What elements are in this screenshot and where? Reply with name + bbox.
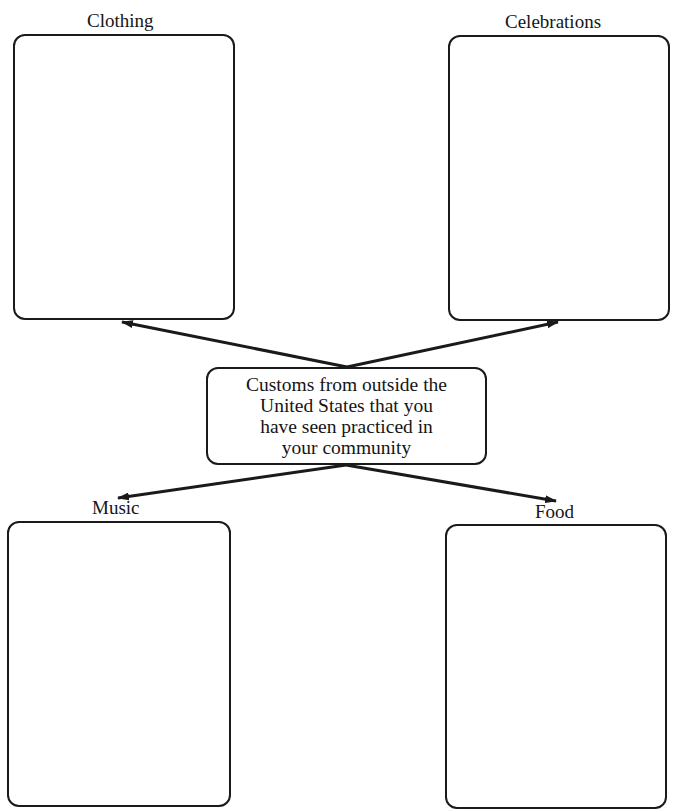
arrow-to-music — [118, 465, 346, 498]
central-topic-line-2: United States that you — [260, 395, 433, 416]
arrow-to-celebrations — [347, 322, 558, 367]
clothing-label: Clothing — [87, 11, 154, 31]
celebrations-label: Celebrations — [505, 12, 601, 32]
central-topic-line-3: have seen practiced in — [260, 416, 433, 437]
food-box[interactable] — [445, 524, 667, 809]
arrow-to-food — [346, 465, 556, 501]
clothing-box[interactable] — [13, 34, 235, 320]
central-topic-box: Customs from outside the United States t… — [206, 367, 487, 465]
music-label: Music — [92, 498, 140, 518]
arrow-to-clothing — [122, 322, 347, 367]
celebrations-box[interactable] — [448, 35, 670, 321]
central-topic-line-4: your community — [282, 437, 411, 458]
food-label: Food — [535, 502, 574, 522]
music-box[interactable] — [7, 521, 231, 807]
central-topic-line-1: Customs from outside the — [246, 374, 447, 395]
